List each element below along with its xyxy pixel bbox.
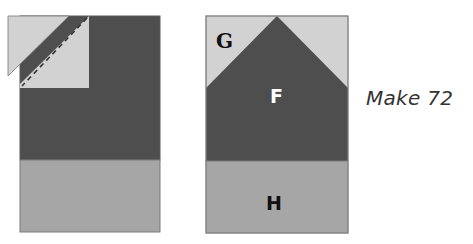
quilt-block-diagram: G F H: [0, 0, 473, 244]
left-block: [8, 16, 160, 232]
label-h: H: [266, 192, 282, 214]
medium-bottom-strip: [20, 160, 160, 232]
label-f: F: [270, 85, 283, 107]
right-block: G F H: [206, 16, 348, 233]
make-count-caption: Make 72: [366, 86, 453, 110]
label-g: G: [216, 29, 233, 53]
